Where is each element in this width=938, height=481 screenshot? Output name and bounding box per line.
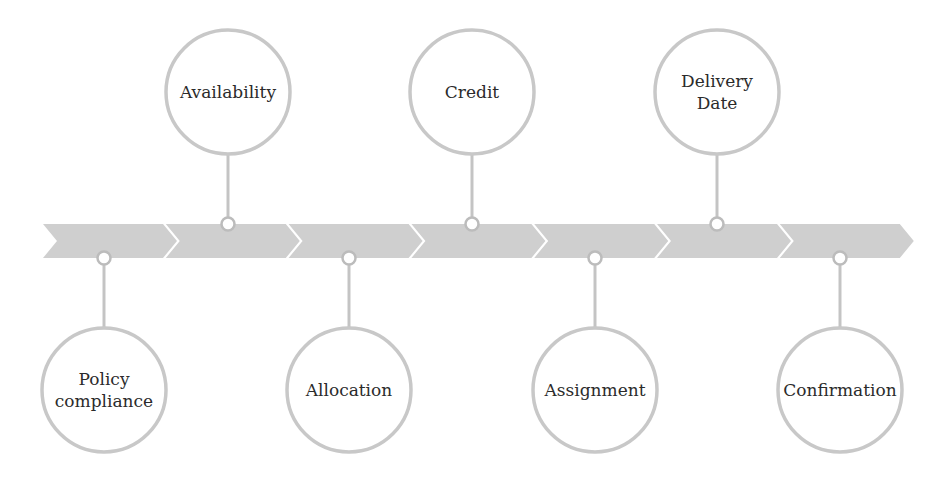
step-circle [655, 30, 779, 154]
timeline-diagram: PolicycomplianceAvailabilityAllocationCr… [0, 0, 938, 481]
step-label: Delivery [681, 71, 753, 91]
step-label: Credit [445, 82, 500, 102]
step-node: Allocation [287, 328, 411, 452]
connector-dot [98, 252, 111, 265]
chevron-segment [534, 224, 668, 258]
step-label: Policy [79, 369, 130, 389]
step-node: Confirmation [778, 328, 902, 452]
step-node: Availability [166, 30, 290, 154]
connector-dot [222, 218, 235, 231]
step-label: compliance [55, 391, 153, 411]
chevron-segment [43, 224, 177, 258]
connector-dot [711, 218, 724, 231]
connector-dot [589, 252, 602, 265]
step-label: Assignment [544, 380, 646, 400]
step-node: Policycompliance [42, 328, 166, 452]
step-label: Availability [179, 82, 276, 102]
chevron-segment [289, 224, 423, 258]
chevron-segment [657, 224, 791, 258]
step-circle [42, 328, 166, 452]
step-label: Date [697, 93, 738, 113]
step-label: Allocation [305, 380, 393, 400]
step-node: Assignment [533, 328, 657, 452]
step-label: Confirmation [783, 380, 896, 400]
chevron-segment [411, 224, 545, 258]
connector-dot [466, 218, 479, 231]
connector-dot [834, 252, 847, 265]
step-node: DeliveryDate [655, 30, 779, 154]
chevron-band [43, 224, 914, 258]
connector-dot [343, 252, 356, 265]
step-node: Credit [410, 30, 534, 154]
chevron-segment [780, 224, 914, 258]
